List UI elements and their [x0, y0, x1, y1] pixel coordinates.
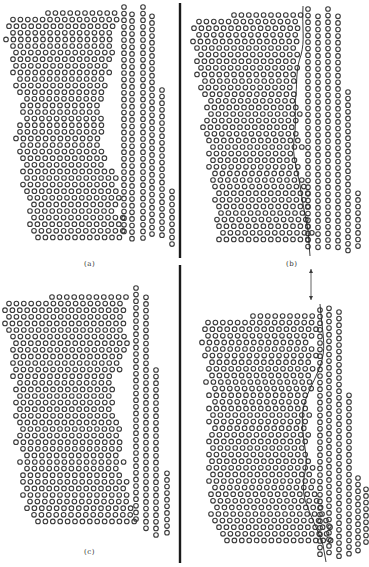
panel-c: [3, 286, 170, 538]
panel-b: [191, 6, 361, 256]
double-arrow-icon: [309, 269, 313, 300]
panel-label-a: (a): [84, 260, 95, 268]
lattice-drawing: [0, 0, 369, 567]
panel-a: [4, 5, 175, 247]
panel-d: [200, 304, 369, 562]
panel-label-b: (b): [286, 260, 297, 268]
bubble-raft-figure: (a) (b) (c): [0, 0, 369, 567]
panel-label-c: (c): [84, 548, 95, 556]
